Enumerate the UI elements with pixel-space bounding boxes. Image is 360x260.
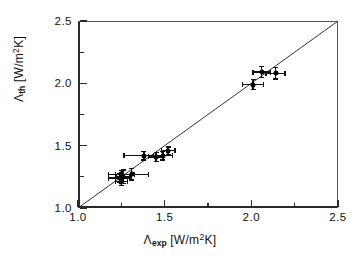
y-axis-tick-labels: 1.01.52.02.5 [30,21,72,208]
x-axis-units-end: K] [204,233,216,247]
y-axis-subscript: th [17,86,27,94]
x-tick-label: 2.5 [329,211,347,223]
y-axis-superscript: 2 [11,48,21,53]
x-axis-subscript: exp [152,238,167,248]
y-tick-label: 2.5 [55,15,73,27]
y-tick-label: 2.0 [55,77,73,89]
y-axis-title: Λth [W/m2K] [12,36,26,102]
x-axis-units: [W/m [170,233,199,247]
x-axis-symbol: Λ [144,233,152,247]
x-tick-label: 1.0 [69,211,87,223]
y-axis-units-end: K] [12,36,26,48]
x-axis-title: Λexp [W/m2K] [0,232,360,248]
y-tick-label: 1.5 [55,140,73,152]
y-axis-units: [W/m [12,53,26,82]
figure: 1.01.52.02.5 1.01.52.02.5 Λexp [W/m2K] Λ… [0,0,360,260]
y-axis-title-wrapper: Λth [W/m2K] [9,0,27,149]
y-axis-symbol: Λ [12,94,26,102]
x-tick-label: 1.5 [156,211,174,223]
x-tick-label: 2.0 [243,211,261,223]
